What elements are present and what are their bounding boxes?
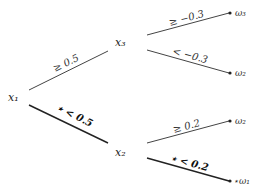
- leaf-dot-omega2-upper: [228, 71, 231, 74]
- leaf-omega2-upper: ω₂: [235, 68, 246, 78]
- edge-label-x1-x2: ⋆ < 0.5: [55, 102, 95, 129]
- leaf-dot-omega2-lower: [228, 119, 231, 122]
- leaf-dot-omega3: [228, 11, 231, 14]
- edge-label-x3-omega3: ≥ −0.3: [168, 8, 205, 28]
- node-x1: x₁: [8, 91, 19, 104]
- leaf-omega1: ⋆ω₁: [233, 176, 250, 186]
- node-x3: x₃: [115, 36, 126, 49]
- leaf-omega2-lower: ω₂: [235, 116, 246, 126]
- leaf-dot-omega1: [228, 179, 231, 182]
- decision-tree-diagram: x₁ x₃ x₂ ω₃ ω₂ ω₂ ⋆ω₁ ≥ 0.5 ⋆ < 0.5 ≥ −0…: [0, 0, 259, 192]
- leaf-omega3: ω₃: [235, 8, 246, 18]
- edge-label-x1-x3: ≥ 0.5: [51, 52, 81, 74]
- node-x2: x₂: [115, 146, 126, 159]
